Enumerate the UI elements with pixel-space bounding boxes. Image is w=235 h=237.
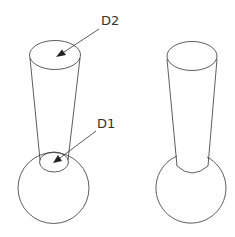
sphere-outline <box>156 156 226 223</box>
left-figure: D2 D1 <box>18 13 119 224</box>
stem-left-edge <box>167 59 177 166</box>
d1-label: D1 <box>97 116 115 131</box>
technical-drawing: D2 D1 <box>0 0 235 237</box>
top-face-ellipse <box>30 41 81 70</box>
stem-right-edge <box>208 59 217 166</box>
d2-arrowhead <box>56 50 66 58</box>
d2-leader-line <box>64 29 99 52</box>
top-face-ellipse <box>167 42 217 71</box>
d1-arrowhead <box>53 155 62 163</box>
d2-label: D2 <box>101 13 119 28</box>
right-figure <box>156 42 226 224</box>
sphere-outline <box>18 153 89 224</box>
d1-leader-line <box>60 131 96 158</box>
stem-base-arc <box>177 166 208 173</box>
stem-left-edge <box>30 58 40 160</box>
